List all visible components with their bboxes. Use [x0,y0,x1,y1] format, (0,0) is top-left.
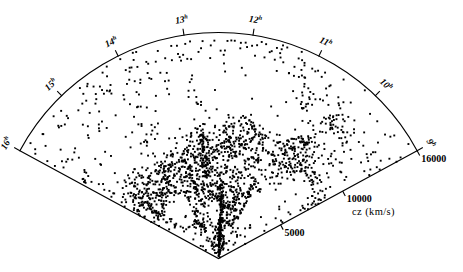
ra-tick-label-10h: 10h [378,75,396,93]
cz-tick-marks [281,151,420,230]
ra-tick-label-14h: 14h [103,33,120,49]
figure-canvas: 16h15h14h13h12h11h10h9h 50001000016000 c… [0,0,463,272]
ra-tick-label-11h: 11h [318,33,335,49]
svg-text:11h: 11h [318,33,335,49]
ra-tick-label-15h: 15h [42,75,60,93]
svg-text:13h: 13h [174,12,189,26]
svg-text:12h: 12h [248,12,263,26]
ra-tick-label-9h: 9h [424,136,438,149]
cz-tick-label-10000: 10000 [347,193,372,204]
svg-text:16h: 16h [0,134,14,151]
galaxy-point-cloud [30,40,410,259]
radial-axis-title: cz (km/s) [352,206,395,218]
ra-tick-marks [14,29,423,151]
svg-text:10h: 10h [378,75,396,93]
cz-tick-label-16000: 16000 [421,153,446,164]
svg-text:15h: 15h [42,75,60,93]
svg-text:14h: 14h [103,33,120,49]
ra-tick-label-13h: 13h [174,12,189,26]
wedge-plot: 16h15h14h13h12h11h10h9h 50001000016000 c… [0,0,463,272]
cz-tick-label-5000: 5000 [285,227,305,238]
svg-text:9h: 9h [424,136,438,149]
ra-tick-label-12h: 12h [248,12,263,26]
ra-tick-label-16h: 16h [0,134,14,151]
